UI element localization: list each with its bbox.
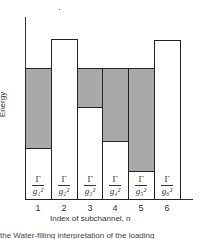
x-tick-2: 2 [51,203,77,213]
x-tick-6: 6 [154,203,180,213]
figure-caption: the Water-filling interpretation of the … [0,231,204,239]
water-fill-4 [102,68,129,142]
water-fill-1 [25,68,52,149]
stray-mark [59,9,60,10]
x-tick-4: 4 [102,203,128,213]
bar-label-4: Γg₄² [102,175,128,196]
bar-label-5: Γg₅² [128,175,154,196]
x-axis-label: Index of subchannel, n [50,214,131,223]
x-tick-3: 3 [77,203,103,213]
x-tick-5: 5 [128,203,154,213]
water-fill-3 [77,68,103,108]
bar-label-6: Γg₆² [154,175,180,196]
y-axis-label: Energy [0,92,7,117]
bar-label-3: Γg₃² [77,175,103,196]
water-fill-5 [128,68,155,172]
x-tick-1: 1 [25,203,51,213]
bar-label-1: Γg₁² [25,175,51,196]
bar-label-2: Γg₂² [51,175,77,196]
